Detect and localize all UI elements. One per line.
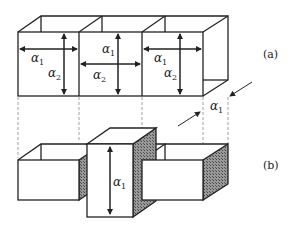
svg-text:1: 1: [110, 49, 115, 58]
svg-text:α: α: [48, 66, 56, 80]
svg-text:α: α: [31, 51, 39, 65]
svg-text:α: α: [164, 66, 172, 80]
diagram-canvas: α1 α2 α1 α2 α1 α2 α1 (a): [0, 0, 298, 227]
svg-text:1: 1: [39, 58, 44, 67]
svg-text:1: 1: [218, 106, 223, 115]
svg-text:α: α: [210, 99, 218, 113]
panel-a-boxes: [18, 16, 228, 96]
svg-text:2: 2: [56, 73, 61, 82]
caption-b: (b): [263, 159, 279, 172]
svg-text:2: 2: [172, 73, 177, 82]
svg-text:α: α: [93, 68, 101, 82]
panel-b-boxes: [18, 128, 228, 217]
caption-a: (a): [263, 48, 278, 61]
svg-text:α: α: [102, 42, 110, 56]
svg-text:α: α: [154, 51, 162, 65]
svg-text:α: α: [113, 175, 121, 189]
svg-text:2: 2: [101, 75, 106, 84]
svg-text:1: 1: [121, 182, 126, 191]
